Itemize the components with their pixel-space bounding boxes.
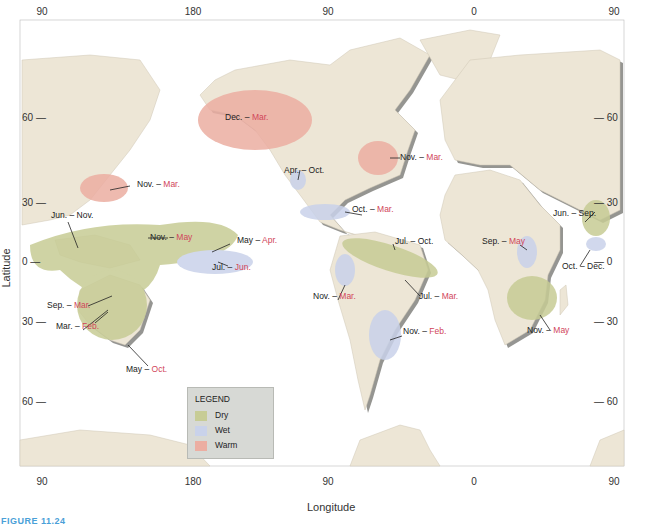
- region-start-month: Nov.: [137, 179, 154, 189]
- region-label-dry: Nov. – May: [527, 325, 569, 335]
- region-end-month: Jun.: [235, 262, 251, 272]
- top-tick: 90: [36, 6, 47, 17]
- wet-region-se-south-america: [369, 310, 401, 360]
- region-label-warm: Nov. – Mar.: [400, 152, 443, 162]
- x-axis-title: Longitude: [307, 501, 355, 513]
- dry-region-southern-africa: [507, 276, 557, 320]
- dash-separator: –: [67, 210, 76, 220]
- bottom-tick: 90: [608, 476, 619, 487]
- left-tick: 30 —: [22, 316, 46, 327]
- wet-region-gulf: [300, 204, 350, 220]
- region-label-dry: Sep. – Mar.: [47, 300, 90, 310]
- region-end-month: Feb.: [82, 321, 99, 331]
- world-map: [0, 0, 651, 528]
- region-start-month: Sep.: [47, 300, 65, 310]
- dash-separator: –: [417, 152, 426, 162]
- region-label-wet: Oct. – Dec.: [562, 261, 605, 271]
- region-start-month: Nov.: [527, 325, 544, 335]
- dash-separator: –: [578, 261, 587, 271]
- dash-separator: –: [544, 325, 553, 335]
- region-label-wet: Nov. – Feb.: [403, 326, 446, 336]
- top-tick: 180: [185, 6, 202, 17]
- region-end-month: Sep.: [579, 208, 597, 218]
- top-tick: 0: [471, 6, 477, 17]
- region-end-month: Nov.: [77, 210, 94, 220]
- region-end-month: Mar.: [74, 300, 91, 310]
- region-label-dry: May – Apr.: [237, 235, 277, 245]
- dash-separator: –: [73, 321, 82, 331]
- region-label-dry: Mar. – Feb.: [56, 321, 99, 331]
- dash-separator: –: [330, 291, 339, 301]
- bottom-tick: 180: [185, 476, 202, 487]
- region-label-wet: Oct. – Mar.: [352, 204, 394, 214]
- region-start-month: May: [237, 235, 253, 245]
- region-start-month: Jul.: [212, 262, 225, 272]
- region-end-month: Apr.: [262, 235, 277, 245]
- dash-separator: –: [225, 262, 234, 272]
- climate-anomaly-map: 9018090090 9018090090 60 —30 —0 —30 —60 …: [0, 0, 651, 528]
- region-end-month: May: [509, 236, 525, 246]
- region-start-month: Jun.: [51, 210, 67, 220]
- left-tick: 60 —: [22, 396, 46, 407]
- dash-separator: –: [65, 300, 74, 310]
- left-tick: 0 —: [22, 256, 40, 267]
- region-label-dry: Jul. – Oct.: [395, 236, 433, 246]
- region-end-month: Mar.: [442, 291, 459, 301]
- legend: LEGEND Dry Wet Warm: [187, 387, 274, 459]
- region-end-month: Mar.: [426, 152, 443, 162]
- region-end-month: Mar.: [377, 204, 394, 214]
- region-end-month: Oct.: [152, 364, 168, 374]
- legend-item-warm: Warm: [195, 440, 237, 451]
- region-start-month: Nov.: [403, 326, 420, 336]
- dash-separator: –: [368, 204, 377, 214]
- region-label-wet: Jul. – Jun.: [212, 262, 251, 272]
- dash-separator: –: [242, 112, 251, 122]
- region-end-month: May: [176, 232, 192, 242]
- wet-swatch: [195, 426, 207, 436]
- legend-title: LEGEND: [195, 394, 230, 404]
- region-label-dry: Jun. – Nov.: [51, 210, 93, 220]
- region-label-dry: Nov. – May: [150, 232, 192, 242]
- y-axis-title: Latitude: [0, 248, 12, 287]
- bottom-tick: 0: [471, 476, 477, 487]
- region-end-month: May: [553, 325, 569, 335]
- dash-separator: –: [420, 326, 429, 336]
- figure-label: FIGURE 11.24: [1, 516, 66, 526]
- dash-separator: –: [500, 236, 509, 246]
- wet-region-sri-lanka: [586, 237, 606, 251]
- region-label-warm: Dec. – Mar.: [225, 112, 268, 122]
- region-end-month: Mar.: [163, 179, 180, 189]
- region-end-month: Oct.: [418, 236, 434, 246]
- dash-separator: –: [299, 165, 308, 175]
- region-label-warm: Nov. – Mar.: [137, 179, 180, 189]
- region-label-wet: Apr. – Oct.: [284, 165, 324, 175]
- region-start-month: Apr.: [284, 165, 299, 175]
- region-start-month: Sep.: [482, 236, 500, 246]
- region-label-dry: Jun. – Sep.: [553, 208, 596, 218]
- region-start-month: Jul.: [419, 291, 432, 301]
- region-label-dry: May – Oct.: [126, 364, 167, 374]
- dash-separator: –: [154, 179, 163, 189]
- dash-separator: –: [569, 208, 578, 218]
- dash-separator: –: [432, 291, 441, 301]
- region-start-month: Oct.: [352, 204, 368, 214]
- region-start-month: Oct.: [562, 261, 578, 271]
- right-tick: — 60: [594, 396, 618, 407]
- region-label-wet: Nov. – Mar.: [313, 291, 356, 301]
- right-tick: — 30: [594, 316, 618, 327]
- region-start-month: Dec.: [225, 112, 242, 122]
- legend-item-dry: Dry: [195, 410, 228, 421]
- dry-swatch: [195, 411, 207, 421]
- top-tick: 90: [608, 6, 619, 17]
- dash-separator: –: [408, 236, 417, 246]
- region-label-wet: Sep. – May: [482, 236, 525, 246]
- right-tick: — 60: [594, 112, 618, 123]
- warm-swatch: [195, 441, 207, 451]
- region-end-month: Oct.: [309, 165, 325, 175]
- right-tick: — 30: [594, 197, 618, 208]
- legend-item-wet: Wet: [195, 425, 230, 436]
- region-start-month: Jun.: [553, 208, 569, 218]
- region-start-month: Nov.: [400, 152, 417, 162]
- region-start-month: May: [126, 364, 142, 374]
- top-tick: 90: [322, 6, 333, 17]
